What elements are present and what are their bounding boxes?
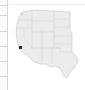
sidebar-list	[0, 0, 8, 90]
western-us-map[interactable]	[9, 0, 85, 90]
list-item[interactable]	[0, 61, 8, 62]
list-item[interactable]	[0, 46, 8, 47]
list-item[interactable]	[0, 15, 8, 16]
map-marker	[22, 14, 23, 15]
map-canvas[interactable]	[9, 0, 85, 90]
list-item[interactable]	[0, 5, 8, 6]
list-item[interactable]	[0, 31, 8, 32]
list-item[interactable]	[0, 76, 8, 77]
map-marker	[19, 46, 22, 49]
